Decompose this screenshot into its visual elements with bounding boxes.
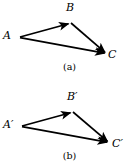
vertex-label-c-prime: C′ bbox=[112, 138, 123, 149]
arrow-aprime-to-bprime bbox=[22, 113, 71, 126]
vertex-label-a-prime: A′ bbox=[3, 119, 13, 130]
panel-b: A′ B′ C′ (b) bbox=[0, 84, 139, 167]
vertex-label-a: A bbox=[3, 30, 11, 41]
panel-b-caption: (b) bbox=[0, 151, 139, 161]
arrow-a-to-b bbox=[20, 24, 69, 37]
vertex-label-b: B bbox=[66, 2, 74, 13]
vertex-label-b-prime: B′ bbox=[67, 91, 78, 102]
vertex-label-c: C bbox=[108, 49, 116, 60]
panel-a-caption: (a) bbox=[0, 62, 139, 72]
panel-a: A B C (a) bbox=[0, 0, 139, 83]
vector-triangle-figure: A B C (a) A′ B′ C′ (b) bbox=[0, 0, 139, 167]
